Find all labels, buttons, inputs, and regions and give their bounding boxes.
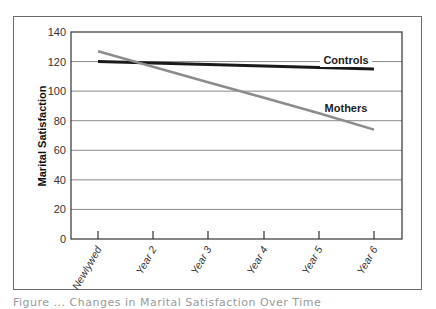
x-tick-label: Year 5 xyxy=(299,244,325,276)
y-tick-label: 140 xyxy=(48,26,66,38)
y-tick-label: 120 xyxy=(48,56,66,68)
x-tick-label: Newlywed xyxy=(69,243,104,291)
y-tick-label: 20 xyxy=(54,203,66,215)
y-tick-label: 80 xyxy=(54,115,66,127)
x-axis-ticks: NewlywedYear 2Year 3Year 4Year 5Year 6 xyxy=(69,231,379,291)
y-tick-label: 40 xyxy=(54,174,66,186)
y-tick-label: 0 xyxy=(60,233,66,245)
x-tick-label: Year 4 xyxy=(244,244,270,276)
x-tick-label: Year 3 xyxy=(188,244,214,276)
x-tick-label: Year 6 xyxy=(354,244,380,276)
y-tick-label: 100 xyxy=(48,85,66,97)
gridlines xyxy=(71,62,402,210)
y-axis-label: Marital Satisfaction xyxy=(36,85,48,186)
y-axis-ticks: 020406080100120140 xyxy=(48,26,66,245)
x-tick-label: Year 2 xyxy=(133,244,159,276)
series-labels: ControlsMothers xyxy=(320,53,372,114)
label-controls: Controls xyxy=(323,54,368,66)
y-tick-label: 60 xyxy=(54,144,66,156)
label-mothers: Mothers xyxy=(325,102,368,114)
figure-caption: Figure ... Changes in Marital Satisfacti… xyxy=(13,296,321,309)
